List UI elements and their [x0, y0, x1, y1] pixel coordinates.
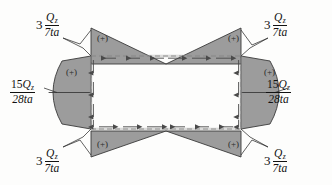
sign-marker-top-right: (+)	[228, 34, 239, 43]
sign-marker-top-left: (+)	[97, 34, 108, 43]
label-bottom-left-denominator: 7ta	[44, 162, 61, 174]
label-bottom-right-fraction: Qz 7ta	[272, 147, 289, 174]
label-bottom-left-fraction: Qz 7ta	[44, 147, 61, 174]
leader-top-right-b	[241, 38, 268, 56]
label-top-left-fraction: Qz 7ta	[44, 11, 61, 38]
leader-bottom-left-a	[63, 140, 91, 155]
label-top-right-denominator: 7ta	[272, 26, 289, 38]
label-top-left: 3 Qz 7ta	[36, 11, 60, 38]
sign-marker-mid-left: (+)	[66, 68, 77, 77]
label-mid-right-numerator: 15Qz	[266, 78, 291, 93]
label-bottom-left: 3 Qz 7ta	[36, 147, 60, 174]
sign-marker-bottom-left: (+)	[97, 140, 108, 149]
label-mid-right-denominator: 28ta	[267, 93, 289, 105]
label-mid-right-fraction: 15Qz 28ta	[266, 78, 291, 105]
label-top-right-numerator: Qz	[273, 11, 287, 26]
label-mid-right: 15Qz 28ta	[266, 78, 291, 105]
label-mid-left-numerator: 15Qz	[10, 78, 35, 93]
label-top-right-fraction: Qz 7ta	[272, 11, 289, 38]
label-mid-left-fraction: 15Qz 28ta	[10, 78, 35, 105]
label-top-left-denominator: 7ta	[44, 26, 61, 38]
sign-marker-bottom-right: (+)	[228, 140, 239, 149]
label-bottom-left-numerator: Qz	[45, 147, 59, 162]
box-section-outline	[91, 56, 241, 129]
label-top-right: 3 Qz 7ta	[264, 11, 288, 38]
label-top-left-numerator: Qz	[45, 11, 59, 26]
label-bottom-right-denominator: 7ta	[272, 162, 289, 174]
box-wall-band	[91, 56, 241, 129]
leader-bottom-left-b	[63, 129, 91, 147]
label-bottom-right-lead: 3	[264, 154, 272, 167]
label-mid-left-denominator: 28ta	[11, 93, 33, 105]
leader-bottom-right-b	[241, 129, 268, 147]
label-mid-left: 15Qz 28ta	[10, 78, 35, 105]
shear-flow-figure: (+) (+) (+) (+) (+) (+) 3 Qz 7ta 3 Qz 7t…	[0, 0, 332, 185]
label-bottom-right: 3 Qz 7ta	[264, 147, 288, 174]
label-bottom-right-numerator: Qz	[273, 147, 287, 162]
leader-top-left-a	[63, 30, 91, 44]
leader-top-left-b	[63, 38, 91, 56]
label-bottom-left-lead: 3	[36, 154, 44, 167]
box-centerline-rect	[91, 56, 241, 129]
bottom-flange-distribution	[91, 131, 241, 157]
sign-marker-mid-right: (+)	[264, 68, 275, 77]
label-top-right-lead: 3	[264, 18, 272, 31]
label-top-left-lead: 3	[36, 18, 44, 31]
